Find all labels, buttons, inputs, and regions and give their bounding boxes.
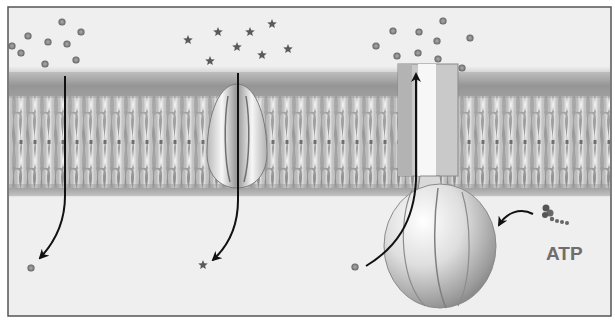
molecule-circle-icon (434, 55, 441, 62)
molecule-circle-icon (389, 27, 396, 34)
diffusion-molecule-inside (27, 264, 34, 271)
molecule-circle-icon (17, 49, 24, 56)
molecule-circle-icon (351, 263, 358, 270)
pump-molecule-inside (351, 263, 358, 270)
molecule-circle-icon (458, 64, 465, 71)
molecule-circle-icon (8, 42, 15, 49)
molecule-circle-icon (44, 38, 51, 45)
membrane-transport-diagram (0, 0, 615, 322)
molecule-circle-icon (415, 28, 422, 35)
molecule-circle-icon (433, 37, 440, 44)
molecule-circle-icon (24, 32, 31, 39)
molecule-circle-icon (63, 40, 70, 47)
molecule-circle-icon (41, 60, 48, 67)
molecule-circle-icon (372, 42, 379, 49)
lipid-bilayer (9, 66, 610, 198)
molecule-circle-icon (72, 56, 79, 63)
molecule-circle-icon (58, 18, 65, 25)
atp-label: ATP (546, 243, 583, 265)
molecule-circle-icon (77, 28, 84, 35)
molecule-circle-icon (27, 264, 34, 271)
molecule-circle-icon (414, 49, 421, 56)
molecule-circle-icon (393, 52, 400, 59)
molecule-circle-icon (439, 17, 446, 24)
molecule-circle-icon (466, 34, 473, 41)
